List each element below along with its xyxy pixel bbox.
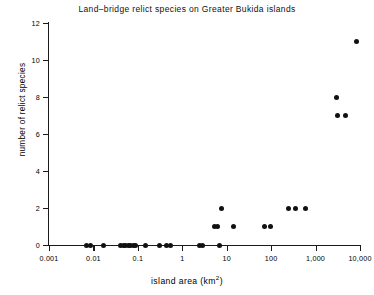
scatter-plot-figure: Land–bridge relict species on Greater Bu… xyxy=(0,0,374,295)
data-point xyxy=(354,39,359,44)
data-point xyxy=(335,113,340,118)
data-point xyxy=(101,243,106,248)
data-point xyxy=(88,243,93,248)
data-point xyxy=(231,224,236,229)
data-point xyxy=(157,243,162,248)
data-point xyxy=(286,206,291,211)
data-point xyxy=(133,243,138,248)
data-point xyxy=(217,243,222,248)
data-point xyxy=(168,243,173,248)
data-point xyxy=(219,206,224,211)
data-point xyxy=(268,224,273,229)
data-point xyxy=(293,206,298,211)
data-points-layer xyxy=(0,0,374,295)
data-point xyxy=(215,224,220,229)
data-point xyxy=(262,224,267,229)
data-point xyxy=(303,206,308,211)
data-point xyxy=(200,243,205,248)
data-point xyxy=(334,95,339,100)
data-point xyxy=(343,113,348,118)
data-point xyxy=(143,243,148,248)
